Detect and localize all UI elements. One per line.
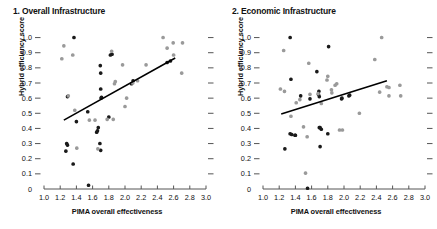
scatter-point xyxy=(111,118,115,122)
y-tick-label: 0.1 xyxy=(241,169,251,178)
y-tick-label: 0 xyxy=(28,185,32,194)
scatter-point xyxy=(98,64,102,68)
x-tick-label: 2.4 xyxy=(371,193,381,202)
panel-2-y-axis-label: Hybrid efficiency score xyxy=(236,5,245,109)
x-tick-label: 2.2 xyxy=(136,193,146,202)
x-tick-label: 2.2 xyxy=(355,193,365,202)
y-tick-label: 0.1 xyxy=(22,169,32,178)
scatter-point xyxy=(373,58,377,62)
x-tick-label: 1.2 xyxy=(55,193,65,202)
scatter-point xyxy=(387,86,391,90)
scatter-point xyxy=(341,128,345,132)
scatter-point xyxy=(399,94,403,98)
scatter-point xyxy=(181,41,185,45)
scatter-point xyxy=(72,36,76,40)
scatter-point xyxy=(305,135,309,139)
panel-economic-infrastructure: 2. Economic Infrastructure 00.10.20.30.4… xyxy=(219,0,437,229)
y-tick-label: 0.5 xyxy=(241,109,251,118)
scatter-point xyxy=(288,36,292,40)
x-tick-label: 2.8 xyxy=(185,193,195,202)
y-tick-label: 0.4 xyxy=(241,124,251,133)
scatter-point xyxy=(66,143,70,147)
panel-1-plot: 00.10.20.30.40.50.60.70.80.91.01.01.21.4… xyxy=(0,0,218,229)
scatter-point xyxy=(172,53,176,57)
x-tick-label: 1.6 xyxy=(88,193,98,202)
scatter-point xyxy=(330,91,334,95)
scatter-point xyxy=(144,63,148,67)
scatter-point xyxy=(62,44,66,48)
scatter-point xyxy=(302,125,306,129)
scatter-point xyxy=(283,90,287,94)
scatter-point xyxy=(325,78,329,82)
x-tick-label: 1.8 xyxy=(323,193,333,202)
scatter-figure: 1. Overall Infrastructure 00.10.20.30.40… xyxy=(0,0,437,229)
scatter-point xyxy=(161,36,165,40)
scatter-point xyxy=(60,57,64,61)
y-tick-label: 0.3 xyxy=(241,139,251,148)
scatter-point xyxy=(358,111,362,115)
scatter-point xyxy=(86,110,90,114)
scatter-point xyxy=(299,94,303,98)
scatter-point xyxy=(294,101,298,105)
panel-overall-infrastructure: 1. Overall Infrastructure 00.10.20.30.40… xyxy=(0,0,218,229)
scatter-point xyxy=(99,87,103,91)
scatter-point xyxy=(71,162,75,166)
panel-2-x-axis-label: PIMA overall effectiveness xyxy=(247,207,425,216)
scatter-point xyxy=(290,133,294,137)
y-tick-label: 0.4 xyxy=(22,124,32,133)
x-tick-label: 1.4 xyxy=(290,193,300,202)
scatter-point xyxy=(387,94,391,98)
x-tick-label: 1.0 xyxy=(39,193,49,202)
x-tick-label: 2.6 xyxy=(169,193,179,202)
x-tick-label: 2.4 xyxy=(152,193,162,202)
scatter-point xyxy=(282,49,286,53)
scatter-point xyxy=(308,97,312,101)
scatter-point xyxy=(165,46,169,50)
scatter-point xyxy=(73,108,77,112)
scatter-point xyxy=(316,92,320,96)
scatter-point xyxy=(340,96,344,100)
y-tick-label: 0.2 xyxy=(22,154,32,163)
scatter-point xyxy=(298,98,302,102)
scatter-point xyxy=(93,118,97,122)
scatter-point xyxy=(123,105,127,109)
scatter-point xyxy=(348,93,352,97)
x-tick-label: 1.0 xyxy=(258,193,268,202)
scatter-point xyxy=(289,77,293,81)
y-tick-label: 0 xyxy=(247,185,251,194)
scatter-point xyxy=(306,186,310,190)
scatter-point xyxy=(378,90,382,94)
y-tick-label: 0.3 xyxy=(22,139,32,148)
x-tick-label: 1.4 xyxy=(71,193,81,202)
scatter-point xyxy=(75,146,79,150)
trend-line xyxy=(64,58,175,120)
scatter-point xyxy=(326,74,330,78)
x-tick-label: 2.0 xyxy=(339,193,349,202)
x-tick-label: 1.6 xyxy=(307,193,317,202)
y-tick-label: 0.2 xyxy=(241,154,251,163)
x-tick-label: 2.8 xyxy=(404,193,414,202)
scatter-point xyxy=(87,183,91,187)
scatter-point xyxy=(327,45,331,49)
scatter-point xyxy=(308,93,312,97)
scatter-point xyxy=(75,120,79,124)
scatter-point xyxy=(289,115,293,119)
scatter-point xyxy=(171,41,175,45)
x-tick-label: 2.6 xyxy=(388,193,398,202)
scatter-point xyxy=(98,142,102,146)
scatter-point xyxy=(110,49,114,53)
scatter-point xyxy=(283,147,287,151)
scatter-point xyxy=(71,53,75,57)
x-tick-label: 1.2 xyxy=(274,193,284,202)
scatter-point xyxy=(96,126,100,130)
x-tick-label: 1.8 xyxy=(104,193,114,202)
scatter-point xyxy=(320,127,324,131)
scatter-point xyxy=(125,96,129,100)
scatter-point xyxy=(335,82,339,86)
scatter-point xyxy=(294,133,298,137)
x-tick-label: 2.0 xyxy=(120,193,130,202)
scatter-point xyxy=(304,171,308,175)
scatter-point xyxy=(105,118,109,122)
scatter-point xyxy=(99,71,103,75)
scatter-point xyxy=(113,80,117,84)
